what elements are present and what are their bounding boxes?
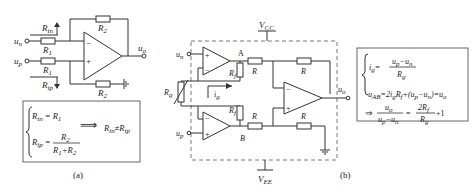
resistor-r1-bottom xyxy=(41,58,55,64)
label-un: un xyxy=(14,36,23,48)
label-up-b: up xyxy=(176,129,184,140)
caption-a: (a) xyxy=(73,170,83,180)
label-r1-top: R1 xyxy=(42,45,52,57)
label-rf-top: Rf xyxy=(228,69,237,80)
arrow-up-icon xyxy=(54,22,60,27)
arrow-down-icon xyxy=(54,84,60,89)
un-terminal xyxy=(25,39,29,43)
resistor-r-bottom-left xyxy=(248,123,262,129)
label-ig: ig xyxy=(214,90,220,101)
label-r-top-left: R xyxy=(251,67,257,76)
resistor-r1-top xyxy=(41,38,55,44)
arrow-right-icon xyxy=(226,83,232,89)
label-vcc: VCC xyxy=(259,20,274,32)
opamp-diff-plus: + xyxy=(286,104,291,113)
opamp-bottom-plus: + xyxy=(205,130,210,139)
opamp-top-minus: − xyxy=(205,66,210,75)
figure-a: − + xyxy=(14,16,147,180)
label-un-b: un xyxy=(176,50,184,61)
label-r-top-right: R xyxy=(300,67,306,76)
label-rip: Rip xyxy=(41,80,53,92)
label-uo: uo xyxy=(138,43,147,55)
formula-box-b xyxy=(357,48,468,121)
up-terminal xyxy=(25,59,29,63)
label-uo-b: uo xyxy=(338,85,346,96)
uo-terminal-b xyxy=(346,96,350,100)
opamp-plus-label: + xyxy=(86,56,91,66)
node-a-label: A xyxy=(238,49,244,58)
formula-b-plus-one: +1 xyxy=(436,109,445,118)
node-b-label: B xyxy=(240,134,245,143)
ground-icon xyxy=(124,79,128,89)
figure-b: VCC VEE + − un A Rf Rg ig xyxy=(163,20,468,186)
resistor-rf-top xyxy=(237,63,243,77)
resistor-r-bottom-right xyxy=(297,123,311,129)
label-r-bottom-left: R xyxy=(251,112,257,121)
opamp-bottom-minus: − xyxy=(205,114,210,123)
opamp-top-plus: + xyxy=(205,51,210,60)
label-up: up xyxy=(14,56,23,68)
label-r2-bottom: R2 xyxy=(97,88,108,100)
resistor-r2-bottom xyxy=(96,81,110,87)
formula-b-line3-eq: = xyxy=(406,109,411,118)
label-r1-bottom: R1 xyxy=(42,65,52,77)
opamp-diff-minus: − xyxy=(286,85,291,94)
implies-icon-b: ⇒ xyxy=(365,108,373,118)
label-vee: VEE xyxy=(258,174,273,186)
circuit-diagram: − + xyxy=(0,0,472,192)
resistor-r2-top xyxy=(96,16,110,22)
label-rf-bottom: Rf xyxy=(228,106,237,117)
resistor-r-top-right xyxy=(297,58,311,64)
implies-icon: ⟹ xyxy=(80,118,97,132)
label-rg: Rg xyxy=(163,88,173,99)
up-terminal-b xyxy=(187,131,191,135)
label-rin: Rin xyxy=(41,23,53,35)
label-r-bottom-right: R xyxy=(300,112,306,121)
resistor-r-top-left xyxy=(248,58,262,64)
resistor-rf-bottom xyxy=(237,106,243,120)
caption-b: (b) xyxy=(340,170,351,180)
ground-icon-b xyxy=(320,150,330,154)
opamp-minus-label: − xyxy=(86,38,91,48)
label-r2-top: R2 xyxy=(97,23,108,35)
un-terminal-b xyxy=(187,52,191,56)
